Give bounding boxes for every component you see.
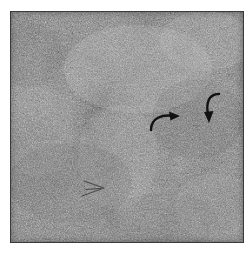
micrograph-image: [10, 11, 244, 243]
figure-alt-text: Grainy grayscale electron micrograph of …: [0, 0, 1, 1]
micrograph-canvas: [10, 11, 244, 243]
micrograph-grain-overlay: [10, 11, 244, 243]
figure-root: Grainy grayscale electron micrograph of …: [0, 0, 252, 254]
